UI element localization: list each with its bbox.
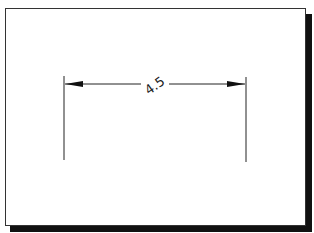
dimension-drawing: 4.5 — [0, 0, 314, 233]
right-arrowhead-icon — [227, 81, 245, 87]
dimension-label: 4.5 — [142, 74, 168, 98]
left-arrowhead-icon — [65, 81, 83, 87]
